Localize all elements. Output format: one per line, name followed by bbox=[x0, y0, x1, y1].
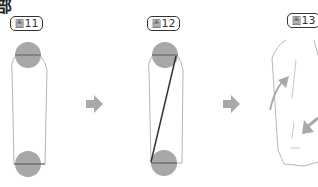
tube-outline bbox=[149, 55, 184, 163]
figure-12 bbox=[149, 42, 184, 176]
fold-crease bbox=[292, 60, 296, 98]
tube-outline bbox=[12, 55, 48, 164]
diagram-canvas bbox=[0, 0, 318, 187]
right-arrow-icon bbox=[223, 95, 240, 113]
figure-11 bbox=[12, 42, 48, 177]
fold-crease bbox=[292, 122, 294, 138]
right-arrow-icon bbox=[86, 95, 103, 113]
twisted-tube-outline bbox=[272, 40, 318, 166]
twist-arrow-shaft bbox=[270, 82, 282, 110]
figure-13 bbox=[270, 40, 318, 166]
diagonal-fold-line bbox=[151, 56, 176, 162]
outline-edge bbox=[314, 40, 318, 55]
